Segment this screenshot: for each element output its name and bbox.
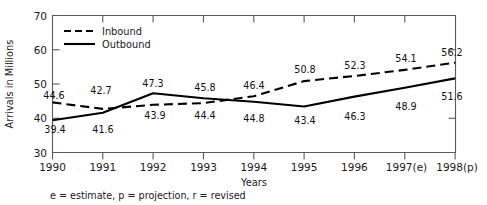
data-label: 47.3 (142, 78, 163, 89)
data-label: 44.4 (194, 110, 215, 121)
y-tick-label: 70 (34, 10, 47, 22)
y-tick-label: 50 (34, 78, 47, 90)
legend-label-inbound: Inbound (102, 26, 142, 37)
data-label: 42.7 (90, 85, 111, 96)
y-tick-label: 60 (34, 44, 47, 56)
data-label: 44.6 (43, 90, 64, 101)
data-label: 43.4 (294, 115, 315, 126)
data-label: 50.8 (294, 64, 315, 75)
data-label: 39.4 (44, 124, 65, 135)
x-tick-labels: 1990 1991 1992 1993 1994 1995 1996 1997(… (39, 161, 478, 173)
x-tick-label: 1990 (39, 161, 66, 173)
x-tick-label: 1991 (89, 161, 116, 173)
data-label: 48.9 (395, 101, 416, 112)
y-tick-label: 30 (34, 147, 47, 159)
footnote-text: e = estimate, p = projection, r = revise… (50, 190, 246, 201)
chart-legend: Inbound Outbound (64, 26, 151, 50)
data-label: 56.2 (441, 47, 462, 58)
x-tick-label: 1997(e) (386, 161, 427, 173)
x-tick-label: 1996 (341, 161, 368, 173)
data-label: 45.8 (194, 82, 215, 93)
data-label: 43.9 (144, 110, 165, 121)
data-label: 54.1 (395, 53, 416, 64)
data-label: 41.6 (92, 124, 113, 135)
x-tick-label: 1994 (240, 161, 267, 173)
y-tick-label: 40 (34, 112, 47, 124)
x-axis-title: Years (240, 177, 267, 188)
data-label: 46.3 (344, 111, 365, 122)
data-label: 51.6 (441, 91, 462, 102)
x-tick-label: 1998(p) (436, 161, 478, 173)
x-tick-label: 1992 (140, 161, 167, 173)
line-chart-figure: 70 60 50 40 30 Arrivals in Millions 1990… (0, 0, 487, 205)
data-label: 46.4 (243, 80, 264, 91)
data-label: 52.3 (344, 60, 365, 71)
y-axis-title: Arrivals in Millions (4, 40, 15, 129)
x-tick-label: 1995 (291, 161, 318, 173)
y-tick-labels: 70 60 50 40 30 (34, 10, 47, 159)
x-tick-label: 1993 (190, 161, 217, 173)
legend-label-outbound: Outbound (102, 39, 151, 50)
chart-svg: 70 60 50 40 30 Arrivals in Millions 1990… (0, 0, 487, 205)
data-label: 44.8 (243, 113, 264, 124)
